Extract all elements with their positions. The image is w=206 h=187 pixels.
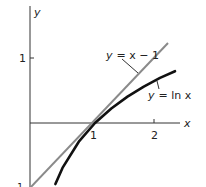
annotation-line: y= x − 1: [105, 49, 159, 62]
leader-line-ln-x: [157, 81, 159, 89]
series-curve-ln-x: [55, 71, 175, 184]
y-tick-label-1: 1: [19, 52, 26, 65]
annotation-curve-y: y: [147, 89, 155, 102]
annotation-line-y: y: [105, 49, 113, 62]
y-axis-label: y: [33, 6, 41, 19]
x-tick-label-1: 1: [90, 129, 97, 142]
annotation-curve-rest: = ln x: [159, 89, 192, 102]
series-line-x-minus-1: [30, 43, 168, 187]
x-axis-label: x: [183, 117, 191, 130]
x-tick-label-2: 2: [151, 129, 158, 142]
annotation-line-rest: = x − 1: [117, 49, 159, 62]
y-tick-label-neg1: -1: [14, 182, 23, 187]
chart: 1 1 2 -1 y x y= x − 1 y= ln x: [0, 0, 206, 187]
annotation-curve: y= ln x: [147, 89, 192, 102]
